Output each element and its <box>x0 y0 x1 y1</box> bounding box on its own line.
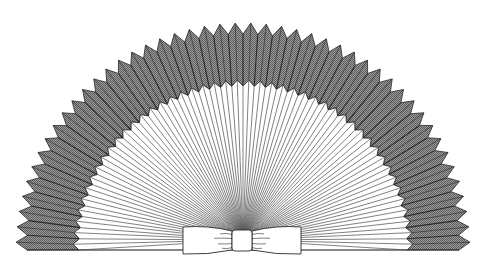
fan-graphic <box>0 0 486 268</box>
bow-right-wing <box>252 227 301 255</box>
bow-knot <box>232 230 252 251</box>
bow-left-wing <box>183 227 232 255</box>
fan-illustration <box>0 0 486 268</box>
bow-icon <box>183 227 301 255</box>
